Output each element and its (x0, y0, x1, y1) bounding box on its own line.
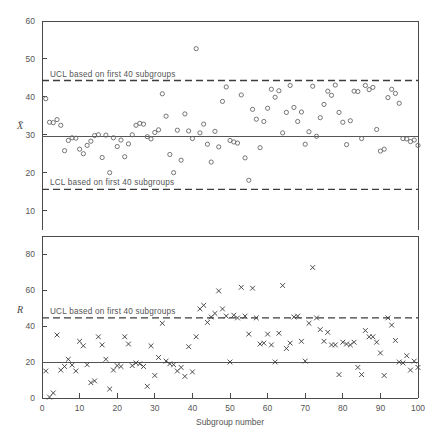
xbar-data-point (247, 178, 251, 182)
r-data-point (337, 372, 342, 377)
xbar-data-point (183, 112, 187, 116)
xbar-data-point (55, 117, 59, 121)
xbar-data-point (224, 85, 228, 89)
control-chart-figure: 102030405060UCL based on first 40 subgro… (0, 0, 437, 448)
r-data-point (310, 265, 315, 270)
xbar-data-point (115, 144, 119, 148)
xbar-data-point (266, 106, 270, 110)
xbar-data-point (326, 89, 330, 93)
xbar-series-label: X̄ (16, 120, 24, 131)
r-data-point (220, 307, 225, 312)
xbar-y-tick-label: 30 (26, 130, 36, 140)
xbar-data-point (360, 136, 364, 140)
r-data-point (107, 387, 112, 392)
xbar-data-point (160, 92, 164, 96)
x-axis-title: Subgroup number (196, 417, 264, 427)
xbar-data-point (220, 99, 224, 103)
r-data-point (85, 362, 90, 367)
xbar-data-point (59, 123, 63, 127)
r-data-point (389, 323, 394, 328)
xbar-chart-panel: 102030405060UCL based on first 40 subgro… (16, 16, 420, 230)
xbar-data-point (397, 101, 401, 105)
r-data-point (299, 339, 304, 344)
xbar-data-point (303, 142, 307, 146)
xbar-data-point (156, 128, 160, 132)
xbar-data-point (100, 155, 104, 159)
r-data-point (216, 289, 221, 294)
r-data-point (104, 357, 109, 362)
xbar-data-point (194, 47, 198, 51)
r-data-point (322, 339, 327, 344)
r-y-tick-label: 40 (26, 321, 36, 331)
r-y-tick-label: 20 (26, 357, 36, 367)
xbar-y-tick-label: 50 (26, 54, 36, 64)
xbar-data-point (149, 137, 153, 141)
r-data-point (408, 368, 413, 373)
r-data-point (280, 283, 285, 288)
r-x-tick-label: 50 (225, 403, 235, 413)
r-data-point (190, 370, 195, 375)
r-data-point (152, 373, 157, 378)
xbar-data-point (292, 105, 296, 109)
xbar-data-point (382, 147, 386, 151)
xbar-data-point (78, 147, 82, 151)
r-data-point (111, 368, 116, 373)
r-data-point (186, 344, 191, 349)
r-data-point (333, 343, 338, 348)
shared-axis-labels: Subgroup number (196, 417, 264, 427)
xbar-data-point (299, 110, 303, 114)
xbar-data-point (318, 116, 322, 120)
r-x-tick-label: 100 (411, 403, 425, 413)
xbar-data-point (164, 114, 168, 118)
r-data-point (261, 341, 266, 346)
r-data-point (66, 357, 71, 362)
r-data-point (359, 372, 364, 377)
xbar-data-point (119, 138, 123, 142)
xbar-data-point (296, 119, 300, 123)
r-y-tick-label: 80 (26, 249, 36, 259)
xbar-data-point (262, 119, 266, 123)
r-data-point (239, 285, 244, 290)
xbar-data-point (254, 117, 258, 121)
xbar-data-point (217, 145, 221, 149)
r-x-tick-label: 20 (112, 403, 122, 413)
xbar-y-tick-label: 10 (26, 206, 36, 216)
r-data-point (224, 314, 229, 319)
r-data-point (393, 338, 398, 343)
xbar-data-point (284, 110, 288, 114)
r-x-tick-label: 30 (150, 403, 160, 413)
r-data-point (122, 334, 127, 339)
xbar-y-tick-label: 40 (26, 92, 36, 102)
r-data-point (145, 384, 150, 389)
xbar-data-point (89, 139, 93, 143)
xbar-data-point (258, 146, 262, 150)
r-data-point (303, 359, 308, 364)
r-x-tick-label: 70 (300, 403, 310, 413)
xbar-data-point (187, 129, 191, 133)
xbar-ucl-annotation: UCL based on first 40 subgroups (50, 70, 176, 79)
r-data-point (149, 343, 154, 348)
xbar-lcl-annotation: LCL based on first 40 subgroups (50, 178, 174, 187)
r-data-point (250, 286, 255, 291)
xbar-data-point (322, 102, 326, 106)
xbar-y-tick-label: 20 (26, 168, 36, 178)
r-data-point (73, 369, 78, 374)
xbar-data-point (153, 130, 157, 134)
r-x-tick-label: 90 (376, 403, 386, 413)
r-data-point (182, 374, 187, 379)
r-data-point (160, 321, 165, 326)
xbar-data-point (390, 87, 394, 91)
xbar-data-point (213, 129, 217, 133)
xbar-data-point (363, 83, 367, 87)
xbar-data-point (108, 171, 112, 175)
r-data-point (276, 331, 281, 336)
r-data-point (156, 355, 161, 360)
xbar-data-point (386, 96, 390, 100)
xbar-data-point (66, 138, 70, 142)
r-data-point (119, 364, 124, 369)
r-data-point (374, 340, 379, 345)
xbar-data-point (190, 136, 194, 140)
xbar-y-tick-label: 60 (26, 16, 36, 26)
r-data-point (51, 391, 56, 396)
r-data-point (288, 341, 293, 346)
